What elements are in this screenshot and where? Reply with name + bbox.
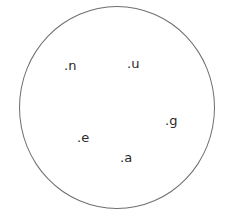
label-e: .e (77, 131, 89, 144)
label-a: .a (120, 151, 132, 164)
label-g: .g (165, 114, 177, 127)
label-n: .n (64, 59, 76, 72)
boundary-circle (19, 6, 215, 209)
label-u: .u (127, 57, 139, 70)
